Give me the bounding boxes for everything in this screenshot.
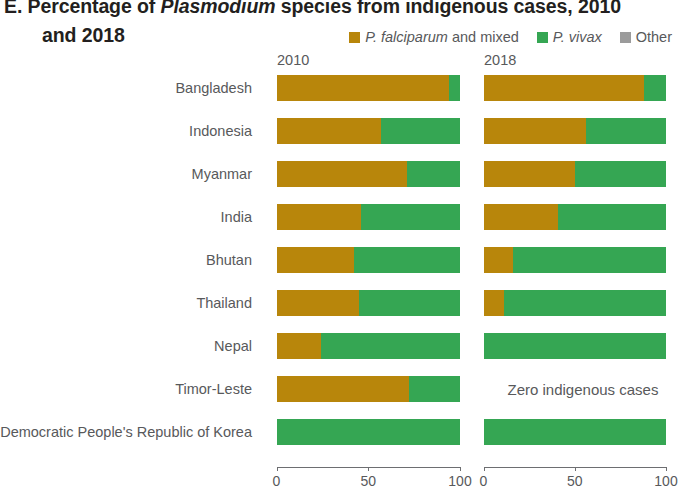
segment-falciparum bbox=[277, 75, 449, 101]
row-label-bangladesh: Bangladesh bbox=[0, 80, 252, 96]
row-label-india: India bbox=[0, 209, 252, 225]
row-label-bhutan: Bhutan bbox=[0, 252, 252, 268]
segment-falciparum bbox=[277, 118, 382, 144]
x-tick-label: 50 bbox=[555, 473, 595, 489]
segment-falciparum bbox=[484, 75, 645, 101]
segment-vivax bbox=[484, 333, 667, 359]
segment-vivax bbox=[513, 247, 666, 273]
bar-2010-democratic-people-s-republic-of-korea bbox=[277, 419, 461, 445]
bar-2018-myanmar bbox=[484, 161, 667, 187]
x-tick bbox=[368, 467, 369, 471]
segment-vivax bbox=[277, 419, 461, 445]
segment-falciparum bbox=[277, 204, 361, 230]
row-label-indonesia: Indonesia bbox=[0, 123, 252, 139]
segment-vivax bbox=[575, 161, 666, 187]
segment-vivax bbox=[354, 247, 460, 273]
bar-2010-bhutan bbox=[277, 247, 461, 273]
row-label-thailand: Thailand bbox=[0, 295, 252, 311]
segment-falciparum bbox=[484, 161, 575, 187]
bar-2010-timor-leste bbox=[277, 376, 461, 402]
segment-falciparum bbox=[277, 333, 321, 359]
segment-vivax bbox=[504, 290, 666, 316]
row-label-timor-leste: Timor-Leste bbox=[0, 381, 252, 397]
segment-vivax bbox=[586, 118, 666, 144]
segment-falciparum bbox=[277, 376, 409, 402]
x-tick bbox=[460, 467, 461, 471]
bar-2018-indonesia bbox=[484, 118, 667, 144]
bar-2010-myanmar bbox=[277, 161, 461, 187]
x-tick bbox=[575, 467, 576, 471]
segment-falciparum bbox=[484, 247, 513, 273]
segment-vivax bbox=[484, 419, 667, 445]
row-label-myanmar: Myanmar bbox=[0, 166, 252, 182]
segment-falciparum bbox=[277, 161, 407, 187]
segment-vivax bbox=[644, 75, 666, 101]
segment-falciparum bbox=[277, 247, 354, 273]
x-tick bbox=[484, 467, 485, 471]
bar-2018-india bbox=[484, 204, 667, 230]
bar-2018-bangladesh bbox=[484, 75, 667, 101]
bar-2010-thailand bbox=[277, 290, 461, 316]
bar-2018-bhutan bbox=[484, 247, 667, 273]
segment-vivax bbox=[359, 290, 460, 316]
x-tick-label: 0 bbox=[257, 473, 297, 489]
x-tick-label: 50 bbox=[348, 473, 388, 489]
bar-2018-democratic-people-s-republic-of-korea bbox=[484, 419, 667, 445]
segment-vivax bbox=[449, 75, 460, 101]
segment-falciparum bbox=[277, 290, 360, 316]
segment-vivax bbox=[558, 204, 666, 230]
segment-falciparum bbox=[484, 204, 559, 230]
bar-2018-thailand bbox=[484, 290, 667, 316]
segment-falciparum bbox=[484, 118, 586, 144]
zero-indigenous-cases-note: Zero indigenous cases bbox=[508, 381, 659, 398]
x-tick-label: 0 bbox=[464, 473, 504, 489]
row-label-nepal: Nepal bbox=[0, 338, 252, 354]
bar-2010-indonesia bbox=[277, 118, 461, 144]
x-tick bbox=[277, 467, 278, 471]
bar-2010-nepal bbox=[277, 333, 461, 359]
bar-2018-nepal bbox=[484, 333, 667, 359]
segment-vivax bbox=[321, 333, 460, 359]
bar-2010-bangladesh bbox=[277, 75, 461, 101]
segment-vivax bbox=[381, 118, 460, 144]
row-label-democratic-people-s-republic-of-korea: Democratic People's Republic of Korea bbox=[0, 424, 252, 440]
x-tick-label: 100 bbox=[646, 473, 682, 489]
bar-2010-india bbox=[277, 204, 461, 230]
segment-vivax bbox=[407, 161, 460, 187]
x-tick bbox=[666, 467, 667, 471]
segment-falciparum bbox=[484, 290, 504, 316]
segment-vivax bbox=[409, 376, 460, 402]
segment-vivax bbox=[361, 204, 460, 230]
